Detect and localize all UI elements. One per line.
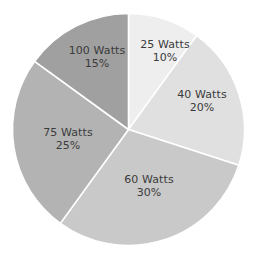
pie-chart-svg xyxy=(0,0,260,258)
pie-slice-group xyxy=(12,13,244,245)
pie-chart: 25 Watts 10% 40 Watts 20% 60 Watts 30% 7… xyxy=(0,0,260,258)
